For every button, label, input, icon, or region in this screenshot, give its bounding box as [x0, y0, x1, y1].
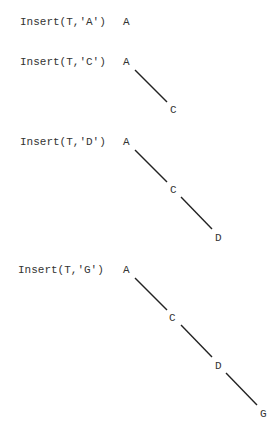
edge-step4-c-d — [181, 325, 212, 357]
step-2-label: Insert(T,'C') — [20, 56, 106, 68]
step-3-node-c: C — [170, 184, 177, 196]
step-4-node-g: G — [260, 408, 267, 420]
step-3-node-d: D — [215, 232, 222, 244]
edge-step2-a-c — [135, 70, 167, 102]
step-2-node-a: A — [123, 56, 130, 68]
step-3-label: Insert(T,'D') — [20, 136, 106, 148]
step-4-node-a: A — [123, 264, 130, 276]
step-1-node-a: A — [123, 16, 130, 28]
edge-step3-a-c — [135, 150, 167, 182]
edge-step4-a-c — [135, 278, 167, 310]
step-2-node-c: C — [170, 104, 177, 116]
edge-step3-c-d — [181, 197, 212, 229]
step-4-label: Insert(T,'G') — [18, 264, 104, 276]
edge-step4-d-g — [226, 373, 257, 405]
step-4-node-d: D — [215, 360, 222, 372]
step-1-label: Insert(T,'A') — [20, 16, 106, 28]
step-3-node-a: A — [123, 136, 130, 148]
step-4-node-c: C — [169, 312, 176, 324]
